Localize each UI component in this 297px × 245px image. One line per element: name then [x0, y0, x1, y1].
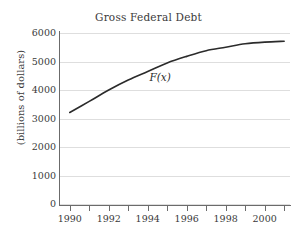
x-tick-label: 1990: [50, 213, 90, 224]
gridline-y: [60, 119, 290, 120]
gridline-y: [60, 176, 290, 177]
x-tick-mark: [148, 206, 149, 211]
y-tick-label: 4000: [22, 84, 56, 95]
x-tick-mark: [187, 206, 188, 211]
x-tick-mark: [109, 206, 110, 211]
y-tick-label: 0: [22, 198, 56, 209]
y-tick-label: 3000: [22, 113, 56, 124]
y-tick-label: 5000: [22, 56, 56, 67]
gridline-y: [60, 33, 290, 34]
y-tick-label: 2000: [22, 141, 56, 152]
x-tick-label: 2000: [245, 213, 285, 224]
chart-figure: Gross Federal Debt (billions of dollars)…: [0, 0, 297, 245]
x-tick-label: 1998: [206, 213, 246, 224]
y-tick-label: 6000: [22, 27, 56, 38]
y-axis-ticks: 0100020003000400050006000: [18, 0, 56, 245]
x-tick-label: 1994: [128, 213, 168, 224]
x-tick-label: 1992: [89, 213, 129, 224]
gridline-y: [60, 147, 290, 148]
x-tick-mark: [265, 206, 266, 211]
gridline-y: [60, 90, 290, 91]
x-tick-mark: [284, 206, 285, 211]
x-tick-mark: [167, 206, 168, 211]
gridlines: [60, 33, 290, 204]
x-tick-mark: [70, 206, 71, 211]
gridline-y: [60, 62, 290, 63]
series-annotation-fx: F(x): [149, 71, 170, 83]
x-tick-label: 1996: [167, 213, 207, 224]
x-tick-mark: [226, 206, 227, 211]
y-tick-label: 1000: [22, 170, 56, 181]
x-axis-line: [59, 205, 291, 206]
y-axis-line: [59, 31, 60, 206]
x-tick-mark: [128, 206, 129, 211]
x-tick-mark: [89, 206, 90, 211]
x-tick-mark: [206, 206, 207, 211]
x-tick-mark: [245, 206, 246, 211]
